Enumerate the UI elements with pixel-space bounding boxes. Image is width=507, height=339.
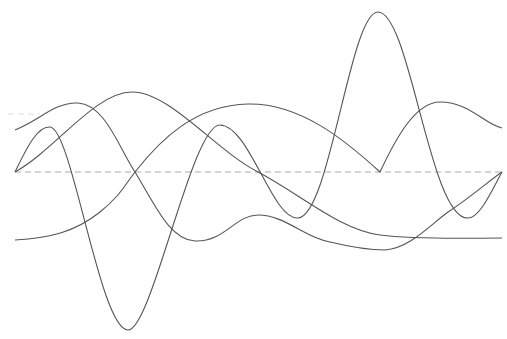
wave-d-curve <box>15 102 502 240</box>
wave-c-curve <box>15 92 502 238</box>
curve-group <box>15 12 502 330</box>
wave-b-curve <box>15 103 502 250</box>
diagram-canvas <box>0 0 507 339</box>
waveform-diagram <box>0 0 507 339</box>
wave-a-curve <box>15 12 502 330</box>
